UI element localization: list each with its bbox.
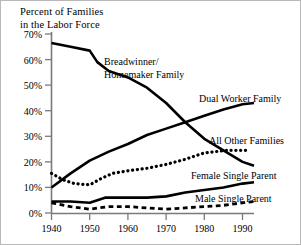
y-tick-label: 50% <box>24 80 42 91</box>
y-tick-label: 30% <box>24 131 42 142</box>
y-tick-label: 20% <box>24 157 42 168</box>
series-label-female-single-parent: Female Single Parent <box>191 170 277 181</box>
y-tick-label: 60% <box>24 55 42 66</box>
x-axis-tick-labels: 1940 1950 1960 1970 1980 1990 <box>42 223 253 234</box>
series-label-male-single-parent: Male Single Parent <box>195 193 272 204</box>
line-chart-plot: 70% 60% 50% 40% 30% 20% 10% 0% 1940 1950… <box>1 1 301 245</box>
y-tick-label: 0% <box>29 208 42 219</box>
series-label-breadwinner-line1: Breadwinner/ <box>104 56 159 67</box>
chart-figure: Percent of Families in the Labor Force 7… <box>0 0 301 245</box>
y-tick-label: 70% <box>24 29 42 40</box>
y-tick-label: 10% <box>24 182 42 193</box>
x-tick-label: 1980 <box>194 223 214 234</box>
series-label-dual-worker: Dual Worker Family <box>199 93 281 104</box>
series-lines <box>52 43 255 209</box>
x-tick-label: 1970 <box>156 223 176 234</box>
y-axis-ticks <box>45 34 52 213</box>
x-tick-label: 1960 <box>118 223 138 234</box>
y-tick-label: 40% <box>24 106 42 117</box>
x-tick-label: 1950 <box>80 223 100 234</box>
y-axis-tick-labels: 70% 60% 50% 40% 30% 20% 10% 0% <box>24 29 42 219</box>
x-tick-label: 1940 <box>42 223 62 234</box>
x-axis-ticks <box>52 214 243 221</box>
series-label-breadwinner-line2: Homemaker Family <box>104 69 184 80</box>
x-tick-label: 1990 <box>233 223 253 234</box>
series-label-all-other: All Other Families <box>209 135 284 146</box>
